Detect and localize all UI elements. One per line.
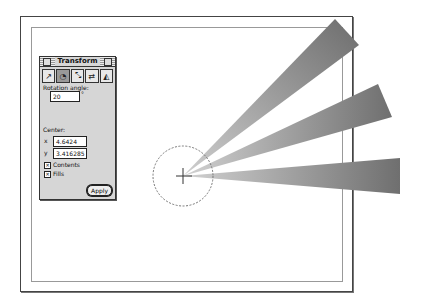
rotate-icon: ◔ bbox=[60, 72, 67, 81]
tab-move[interactable]: ↗ bbox=[42, 69, 55, 83]
y-label: y bbox=[44, 149, 48, 157]
panel-titlebar[interactable]: Transform bbox=[40, 57, 115, 67]
rotation-angle-input[interactable]: 20 bbox=[50, 91, 80, 102]
checkbox-checked-icon: ✕ bbox=[44, 171, 51, 178]
tab-reflect[interactable]: ⇄ bbox=[85, 69, 98, 83]
degree-symbol: ° bbox=[81, 90, 84, 97]
center-label: Center: bbox=[43, 126, 65, 134]
x-label: x bbox=[44, 137, 48, 145]
fills-label: Fills bbox=[53, 170, 64, 177]
contents-label: Contents bbox=[53, 161, 80, 168]
tab-skew[interactable]: ◭ bbox=[100, 69, 113, 83]
reflect-icon: ⇄ bbox=[89, 72, 96, 81]
skew-icon: ◭ bbox=[103, 72, 109, 81]
apply-button[interactable]: Apply bbox=[87, 185, 112, 196]
fills-checkbox[interactable]: ✕Fills bbox=[44, 170, 64, 178]
zoom-box-icon[interactable] bbox=[104, 58, 112, 66]
wedge-top[interactable] bbox=[183, 19, 359, 176]
panel-title: Transform bbox=[55, 57, 101, 66]
tab-scale[interactable]: ⤡ bbox=[71, 69, 84, 83]
close-box-icon[interactable] bbox=[43, 58, 51, 66]
move-icon: ↗ bbox=[45, 72, 52, 81]
center-y-input[interactable]: 3.416285 bbox=[53, 148, 87, 159]
contents-checkbox[interactable]: ✕Contents bbox=[44, 161, 80, 169]
checkbox-checked-icon: ✕ bbox=[44, 162, 51, 169]
transform-panel: Transform ↗ ◔ ⤡ ⇄ ◭ Rotation angle: 20 °… bbox=[39, 56, 116, 200]
center-x-input[interactable]: 4.6424 bbox=[53, 136, 87, 147]
tab-rotate[interactable]: ◔ bbox=[56, 69, 69, 83]
transform-tool-tabs: ↗ ◔ ⤡ ⇄ ◭ bbox=[40, 67, 115, 84]
scale-icon: ⤡ bbox=[75, 71, 81, 81]
